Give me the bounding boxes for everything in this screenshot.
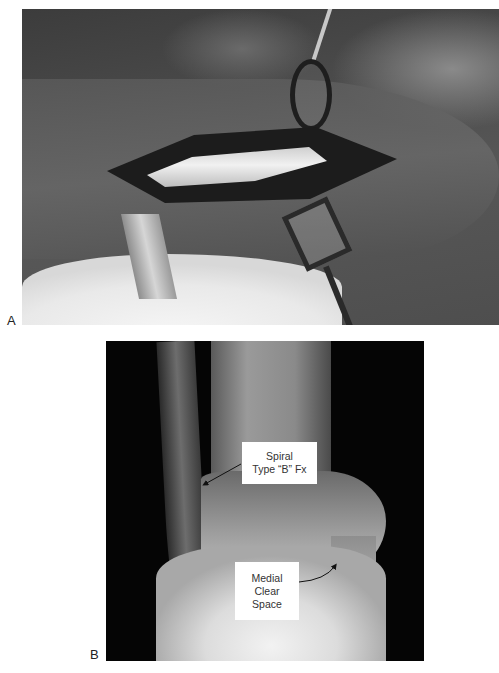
callout-medial-clear-space: Medial Clear Space [235,562,299,620]
callout-line: Clear [235,585,299,598]
skin-hook-retractor [290,59,332,131]
panel-a-surgical-photo [22,9,499,325]
hook-shaft [311,9,333,63]
callout-line: Medial [235,572,299,585]
callout-spiral-fracture: Spiral Type “B” Fx [242,442,317,484]
callout-line: Space [235,598,299,611]
panel-b-label: B [90,648,99,661]
panel-a-label: A [7,314,16,327]
callout-line: Spiral [242,450,317,463]
callout-line: Type “B” Fx [242,463,317,476]
surgical-drape [22,254,342,325]
